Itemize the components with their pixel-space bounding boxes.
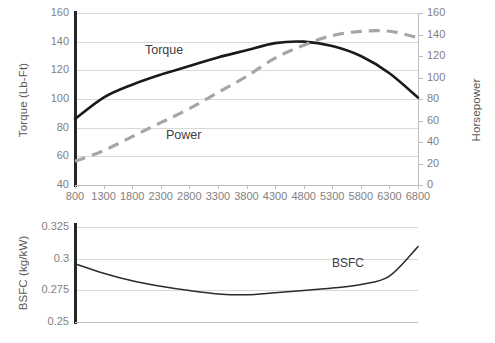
right-y-tick-label: 40	[427, 136, 461, 147]
bsfc-chart: BSFC (kg/kW) BSFC 0.250.2750.30.325	[0, 205, 495, 343]
power-series-label: Power	[166, 128, 201, 142]
left-y-tick-label: 100	[27, 93, 69, 104]
left-y-tick-label: 120	[27, 64, 69, 75]
right-y-tick-label: 160	[427, 7, 461, 18]
torque-horsepower-chart: Torque (Lb-Ft) Horsepower Torque Power 4…	[0, 0, 495, 205]
right-y-tick-label: 80	[427, 93, 461, 104]
right-y-tick-label: 60	[427, 115, 461, 126]
bsfc-y-tick-label: 0.3	[23, 253, 69, 264]
right-y-tick-label: 140	[427, 29, 461, 40]
right-y-tick-label: 0	[427, 179, 461, 190]
bsfc-chart-canvas	[0, 205, 495, 343]
bsfc-y-tick-label: 0.25	[23, 316, 69, 327]
bsfc-y-tick-label: 0.325	[23, 221, 69, 232]
top-chart-canvas	[0, 0, 495, 205]
engine-performance-figure: Torque (Lb-Ft) Horsepower Torque Power 4…	[0, 0, 495, 343]
right-y-tick-label: 20	[427, 158, 461, 169]
bsfc-y-tick-label: 0.275	[23, 284, 69, 295]
bsfc-series-label: BSFC	[332, 256, 364, 270]
right-y-tick-label: 100	[427, 72, 461, 83]
left-y-tick-label: 160	[27, 7, 69, 18]
torque-series-label: Torque	[145, 43, 183, 57]
x-tick-label: 6800	[400, 191, 436, 202]
left-y-tick-label: 40	[27, 179, 69, 190]
left-y-tick-label: 60	[27, 150, 69, 161]
left-y-tick-label: 140	[27, 36, 69, 47]
left-y-tick-label: 80	[27, 122, 69, 133]
right-y-tick-label: 120	[427, 50, 461, 61]
